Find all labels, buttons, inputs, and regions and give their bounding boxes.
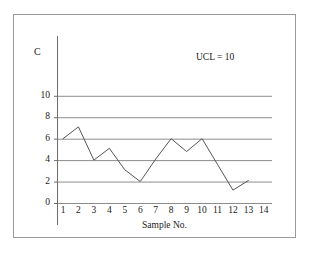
x-tick-label: 11 [210,206,226,216]
x-tick-label: 1 [55,206,71,216]
x-tick-label: 6 [132,206,148,216]
y-tick-label: 6 [24,134,50,144]
plot-area [0,0,314,256]
x-tick-label: 5 [117,206,133,216]
y-tick-label: 10 [24,91,50,101]
y-tick-label: 0 [24,198,50,208]
y-tickmarks-group [54,96,58,203]
x-tick-label: 10 [194,206,210,216]
x-tick-label: 14 [256,206,272,216]
x-tick-label: 7 [148,206,164,216]
x-tick-label: 3 [86,206,102,216]
x-tick-label: 9 [179,206,195,216]
y-tick-label: 8 [24,112,50,122]
y-tick-label: 2 [24,177,50,187]
control-chart-figure: C UCL = 10 Sample No. 0246810 1234567891… [0,0,314,256]
data-series-line [63,127,248,190]
x-tick-label: 8 [163,206,179,216]
x-tick-label: 2 [70,206,86,216]
x-tick-label: 13 [240,206,256,216]
x-tick-label: 12 [225,206,241,216]
x-tick-label: 4 [101,206,117,216]
y-tick-label: 4 [24,155,50,165]
